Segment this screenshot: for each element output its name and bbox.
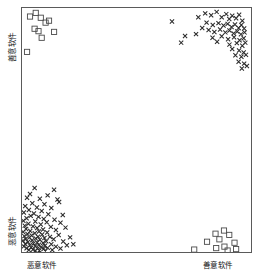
marker-cross xyxy=(40,232,44,236)
marker-cross xyxy=(52,188,56,192)
marker-cross xyxy=(203,11,207,15)
series-cross-cluster-top-right xyxy=(170,10,249,71)
marker-square xyxy=(213,231,218,236)
marker-cross xyxy=(210,36,214,40)
marker-cross xyxy=(61,213,65,217)
series-square-cluster-top-left xyxy=(24,10,56,54)
marker-cross xyxy=(221,23,225,27)
marker-cross xyxy=(242,36,246,40)
marker-cross xyxy=(33,186,37,190)
marker-cross xyxy=(204,21,208,25)
marker-cross xyxy=(46,212,50,216)
marker-cross xyxy=(31,224,35,228)
marker-square xyxy=(232,240,237,245)
marker-cross xyxy=(58,221,62,225)
marker-cross xyxy=(58,246,62,250)
y-axis-label-top: 善意软件 xyxy=(9,32,17,62)
marker-cross xyxy=(220,15,224,19)
marker-cross xyxy=(46,193,50,197)
marker-cross xyxy=(194,32,198,36)
marker-cross xyxy=(242,26,246,30)
marker-cross xyxy=(196,15,200,19)
marker-square xyxy=(24,49,29,54)
x-axis-label-right: 善意软件 xyxy=(203,262,233,270)
marker-cross xyxy=(230,47,234,51)
marker-cross xyxy=(215,10,219,14)
marker-cross xyxy=(235,41,239,45)
marker-square xyxy=(225,248,230,252)
marker-cross xyxy=(237,60,241,64)
marker-cross xyxy=(65,243,69,247)
marker-cross xyxy=(227,43,231,47)
marker-square xyxy=(39,35,44,40)
marker-square xyxy=(33,10,38,15)
marker-cross xyxy=(45,220,49,224)
marker-square xyxy=(234,246,239,251)
marker-cross xyxy=(216,21,220,25)
marker-cross xyxy=(63,226,67,230)
marker-cross xyxy=(240,19,244,23)
marker-square xyxy=(227,232,232,237)
marker-square xyxy=(204,239,209,244)
marker-cross xyxy=(237,48,241,52)
marker-cross xyxy=(237,13,241,17)
y-axis-label-bottom: 恶意软件 xyxy=(9,216,17,246)
marker-cross xyxy=(22,230,25,234)
marker-cross xyxy=(43,249,47,252)
marker-cross xyxy=(25,196,29,200)
marker-cross xyxy=(50,248,54,252)
marker-cross xyxy=(211,23,215,27)
marker-cross xyxy=(224,12,228,16)
marker-cross xyxy=(61,239,65,243)
marker-cross xyxy=(45,230,49,234)
marker-cross xyxy=(215,40,219,44)
marker-cross xyxy=(22,210,26,214)
marker-cross xyxy=(200,26,204,30)
marker-cross xyxy=(245,64,249,68)
marker-square xyxy=(51,29,56,34)
marker-square xyxy=(192,247,197,252)
marker-cross xyxy=(218,27,222,31)
marker-cross xyxy=(49,225,53,229)
marker-cross xyxy=(23,204,27,208)
marker-cross xyxy=(57,233,61,237)
marker-cross xyxy=(42,202,46,206)
marker-cross xyxy=(49,242,53,246)
marker-cross xyxy=(27,208,31,212)
scatter-points-layer xyxy=(22,8,251,252)
marker-cross xyxy=(54,228,58,232)
marker-cross xyxy=(179,41,183,45)
marker-cross xyxy=(38,197,42,201)
marker-cross xyxy=(209,13,213,17)
marker-cross xyxy=(207,28,211,32)
marker-cross xyxy=(30,201,34,205)
marker-cross xyxy=(68,235,72,239)
marker-square xyxy=(222,244,227,249)
marker-cross xyxy=(22,219,25,223)
marker-cross xyxy=(220,34,224,38)
marker-cross xyxy=(39,222,43,226)
marker-square xyxy=(43,20,48,25)
marker-cross xyxy=(183,34,187,38)
marker-cross xyxy=(48,235,52,239)
marker-cross xyxy=(240,66,244,70)
marker-cross xyxy=(232,35,236,39)
series-square-cluster-bottom-right xyxy=(192,228,239,252)
marker-cross xyxy=(27,248,31,252)
marker-cross xyxy=(223,30,227,34)
marker-cross xyxy=(36,215,40,219)
marker-cross xyxy=(49,206,53,210)
marker-cross xyxy=(33,219,37,223)
marker-cross xyxy=(52,218,56,222)
scatter-plot-figure: 恶意软件 善意软件 善意软件 恶意软件 xyxy=(0,0,260,278)
marker-cross xyxy=(40,209,44,213)
marker-cross xyxy=(71,242,75,246)
marker-cross xyxy=(244,53,248,57)
marker-square xyxy=(221,228,226,233)
marker-square xyxy=(214,246,219,251)
marker-cross xyxy=(243,41,247,45)
marker-square xyxy=(46,18,51,23)
plot-area xyxy=(22,8,251,252)
marker-cross xyxy=(230,14,234,18)
marker-square xyxy=(38,15,43,20)
